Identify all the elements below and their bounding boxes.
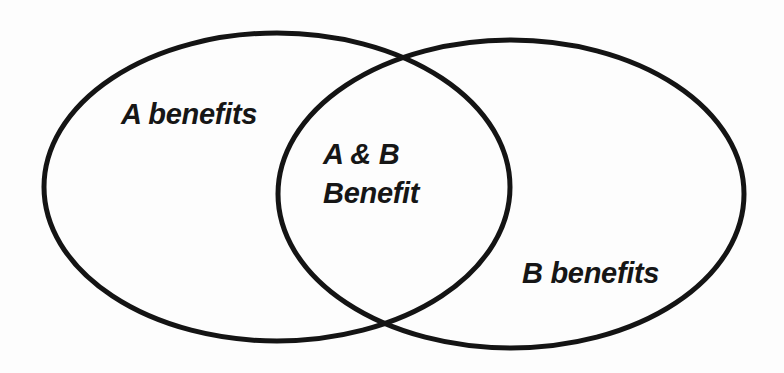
- set-b-label: B benefits: [522, 259, 659, 288]
- intersection-label-line1: A & B: [323, 140, 399, 169]
- set-a-label: A benefits: [121, 100, 257, 129]
- intersection-label-line2: Benefit: [323, 179, 419, 208]
- venn-diagram: A benefits A & B Benefit B benefits: [0, 0, 784, 373]
